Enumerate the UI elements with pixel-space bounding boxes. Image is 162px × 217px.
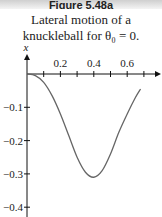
y-tick-label: −0.4 [3, 201, 23, 213]
y-tick-label: −0.3 [3, 168, 23, 180]
chart-plot: x0.20.40.6−0.1−0.2−0.3−0.4 [0, 0, 162, 217]
data-series-line [27, 74, 141, 177]
y-axis-arrow-icon [24, 54, 30, 60]
y-tick-label: −0.1 [3, 101, 23, 113]
y-axis-label: x [23, 41, 29, 53]
x-tick-label: 0.4 [87, 57, 101, 69]
x-axis-arrow-icon [155, 71, 161, 77]
x-tick-label: 0.6 [120, 57, 134, 69]
x-tick-label: 0.2 [54, 57, 68, 69]
y-tick-label: −0.2 [3, 135, 23, 147]
